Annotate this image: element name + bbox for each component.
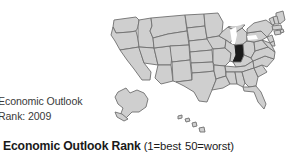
- state-hawaii-inset-1: [178, 115, 182, 119]
- figure-title-strong: Economic Outlook Rank: [3, 139, 141, 153]
- economic-outlook-rank-figure: Economic Outlook Rank: 2009: [0, 0, 290, 158]
- state-hawaii-inset-3: [192, 122, 197, 127]
- us-choropleth-map: [106, 8, 290, 136]
- side-caption-line-1: Economic Outlook: [0, 94, 112, 109]
- state-colorado: [170, 45, 190, 62]
- state-new-mexico: [172, 60, 192, 82]
- legend-worst-label: 50=worst): [185, 140, 234, 152]
- side-caption-line-2: Rank: 2009: [0, 109, 112, 124]
- state-arizona: [155, 65, 173, 84]
- legend-best-label: (1=best: [144, 140, 181, 152]
- figure-title-note: (1=best50=worst): [144, 140, 234, 152]
- state-connecticut: [274, 30, 281, 35]
- state-kansas: [190, 50, 213, 63]
- state-florida: [243, 86, 266, 109]
- state-hawaii-inset-2: [185, 118, 190, 122]
- state-washington: [113, 17, 139, 33]
- side-caption: Economic Outlook Rank: 2009: [0, 94, 112, 123]
- figure-title: Economic Outlook Rank(1=best50=worst): [3, 139, 234, 154]
- state-south-dakota: [187, 26, 207, 41]
- state-massachusetts: [272, 25, 282, 30]
- state-hawaii-inset-4: [199, 127, 205, 132]
